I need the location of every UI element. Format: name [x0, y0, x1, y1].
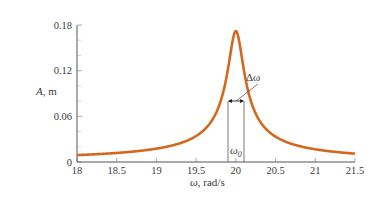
y-axis-label: A, m [35, 85, 57, 97]
x-tick-label: 21.5 [346, 165, 364, 176]
x-axis-label: ω, rad/s [190, 176, 225, 188]
y-tick-label: 0.18 [54, 20, 72, 31]
resonance-curve [77, 31, 355, 155]
x-tick-label: 19 [151, 165, 162, 176]
delta-omega-arrow [228, 84, 258, 103]
x-tick-label: 20.5 [266, 165, 284, 176]
resonance-chart: 00.060.120.18 1818.51919.52020.52121.5 Δ… [0, 0, 376, 198]
x-tick-label: 20 [231, 165, 242, 176]
x-tick-label: 18.5 [108, 165, 126, 176]
omega0-label: ω0 [230, 144, 242, 159]
y-tick-label: 0.06 [54, 111, 72, 122]
x-axis-ticks: 1818.51919.52020.52121.5 [72, 158, 364, 176]
y-axis-ticks: 00.060.120.18 [54, 20, 82, 168]
x-tick-label: 18 [72, 165, 83, 176]
x-tick-label: 19.5 [187, 165, 205, 176]
x-tick-label: 21 [310, 165, 321, 176]
y-tick-label: 0.12 [54, 65, 72, 76]
delta-omega-label: Δω [246, 71, 260, 83]
